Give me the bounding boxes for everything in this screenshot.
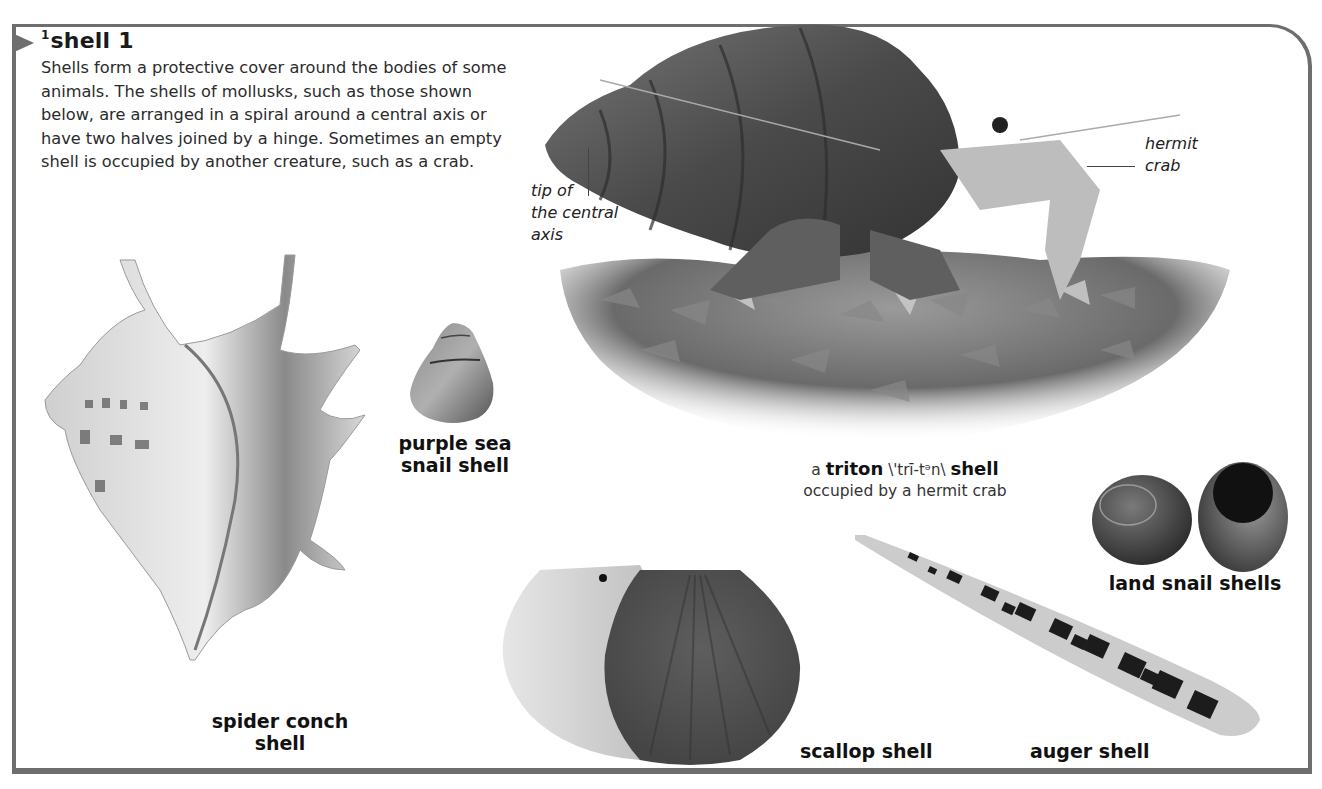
triton-term: triton (826, 458, 883, 479)
spider-conch-label: spider conch shell (195, 710, 365, 754)
headword: 1shell 1 (41, 28, 134, 53)
triton-caption: a triton \'trī-tᵊn\ shell occupied by a … (770, 458, 1040, 502)
entry-pointer-arrow-icon (12, 33, 34, 53)
purple-sea-snail-shell-image (408, 318, 498, 428)
spider-conch-shell-image (40, 250, 370, 670)
definition-text: Shells form a protective cover around th… (41, 56, 511, 174)
purple-sea-snail-label: purple sea snail shell (395, 432, 515, 476)
auger-shell-image (850, 530, 1270, 750)
hermit-crab-callout: hermit crab (1145, 133, 1198, 177)
tip-of-central-axis-callout: tip of the central axis (531, 180, 618, 246)
homograph-number: 1 (41, 28, 50, 42)
sense-number: 1 (118, 28, 134, 53)
scallop-shell-image (490, 545, 810, 770)
pronunciation: \'trī-tᵊn\ (888, 461, 946, 479)
crab-callout-line (1087, 166, 1135, 167)
auger-label: auger shell (1030, 740, 1160, 762)
hermit-crab-triton-image (540, 0, 1240, 450)
headword-text: shell (51, 28, 111, 53)
